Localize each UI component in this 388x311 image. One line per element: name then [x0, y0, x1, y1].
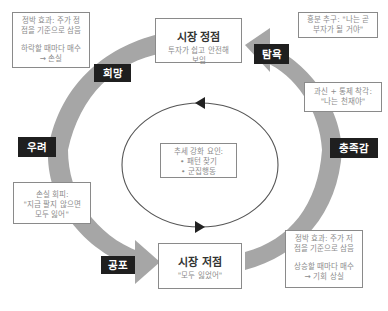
note-text: 상승할 때마다 매수 — [286, 262, 362, 272]
note-text: 부자가 될 거야" — [299, 25, 377, 35]
market-peak-box: 시장 정점 투자가 쉽고 안전해 보임 — [155, 18, 242, 63]
market-bottom-subtitle: "모두 잃었어" — [159, 271, 241, 281]
note-text: 점을 기준으로 삼음 — [286, 244, 362, 254]
note-text: 과신 + 통제 착각: — [305, 87, 381, 97]
note-text: 손실 회피: — [14, 190, 90, 200]
label-greed: 탐욕 — [254, 44, 289, 64]
note-text: 모두 잃어" — [14, 210, 90, 220]
center-heading: 추세 강화 요인: — [161, 147, 236, 157]
label-satisfaction: 충족감 — [330, 138, 378, 158]
inner-arrow-top — [195, 97, 205, 109]
market-peak-subtitle-2: 보임 — [156, 56, 241, 66]
note-overconfidence: 과신 + 통제 착각: "나는 천재야" — [304, 82, 382, 112]
market-peak-title: 시장 정점 — [156, 28, 241, 44]
note-text: → 기회 상실 — [286, 272, 362, 282]
label-fear: 공포 — [101, 256, 135, 274]
note-anchoring-bottom: 정박 효과: 주가 저 점을 기준으로 삼음 상승할 때마다 매수 → 기회 상… — [285, 230, 363, 288]
note-text: 하락할 때마다 매수 — [13, 44, 89, 54]
center-item-herding: • 군집행동 — [161, 167, 236, 177]
note-text: "지금 팔지 않으면 — [14, 200, 90, 210]
label-worry: 우려 — [18, 137, 56, 157]
note-text: "나는 천재야" — [305, 97, 381, 107]
market-peak-subtitle-1: 투자가 쉽고 안전해 — [156, 46, 241, 56]
market-bottom-title: 시장 저점 — [159, 253, 241, 269]
note-text: 정박 효과: 주가 저 — [286, 234, 362, 244]
note-anchoring-peak: 정박 효과: 주가 정 점을 기준으로 삼음 하락할 때마다 매수 → 손실 — [12, 12, 90, 68]
center-item-pattern: • 패턴 찾기 — [161, 157, 236, 167]
note-text: 정박 효과: 주가 정 — [13, 16, 89, 26]
trend-reinforcement-box: 추세 강화 요인: • 패턴 찾기 • 군집행동 — [160, 143, 237, 178]
note-excitement: 흥분 추구: "나는 곧 부자가 될 거야" — [298, 12, 378, 38]
market-bottom-box: 시장 저점 "모두 잃었어" — [158, 243, 242, 289]
inner-arrow-bottom — [195, 221, 205, 233]
label-hope: 희망 — [94, 64, 131, 82]
note-text: 점을 기준으로 삼음 — [13, 26, 89, 36]
note-text: → 손실 — [13, 54, 89, 64]
note-text: 흥분 추구: "나는 곧 — [299, 15, 377, 25]
note-loss-aversion: 손실 회피: "지금 팔지 않으면 모두 잃어" — [13, 182, 91, 224]
arrowhead-fear — [135, 240, 160, 284]
